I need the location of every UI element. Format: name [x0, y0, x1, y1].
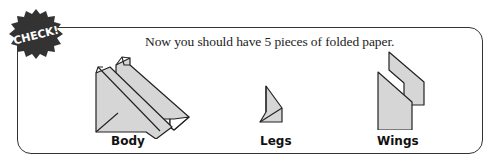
folded-paper-body-icon [94, 55, 204, 139]
piece-label-legs: Legs [260, 134, 292, 148]
legs-figure [258, 84, 288, 126]
body-figure [94, 55, 204, 139]
piece-label-body: Body [111, 134, 145, 148]
folded-paper-legs-icon [258, 84, 288, 126]
folded-paper-wings-icon [376, 50, 432, 130]
wings-figure [376, 50, 432, 130]
check-badge: CHECK! [8, 8, 64, 60]
piece-label-wings: Wings [377, 134, 419, 148]
starburst-badge-icon: CHECK! [8, 8, 64, 60]
instruction-text: Now you should have 5 pieces of folded p… [145, 34, 394, 50]
